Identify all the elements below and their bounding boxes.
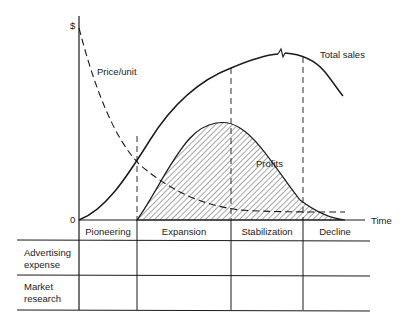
stage-label-stabilization: Stabilization — [241, 226, 292, 237]
price-per-unit-label: Price/unit — [97, 66, 137, 77]
axis-break-mark — [278, 49, 285, 57]
stage-label-expansion: Expansion — [162, 226, 206, 237]
y-axis-label: $ — [70, 20, 76, 31]
product-life-cycle-diagram: $ 0 Time Price/unit Total sales Profits … — [0, 0, 415, 324]
row-label-market-1: Market — [24, 281, 53, 292]
table-line-bottom — [17, 310, 370, 311]
stage-label-pioneering: Pioneering — [85, 226, 130, 237]
x-axis-label: Time — [371, 215, 392, 226]
table-line-top — [17, 240, 370, 241]
row-label-market-2: research — [24, 293, 61, 304]
total-sales-label: Total sales — [320, 49, 365, 60]
row-label-advertising-1: Advertising — [24, 247, 71, 258]
profits-label: Profits — [256, 158, 283, 169]
table-line-middle — [17, 275, 370, 276]
row-label-advertising-2: expense — [24, 259, 60, 270]
profits-area — [137, 123, 345, 220]
stage-label-decline: Decline — [319, 226, 351, 237]
origin-label: 0 — [70, 214, 75, 225]
